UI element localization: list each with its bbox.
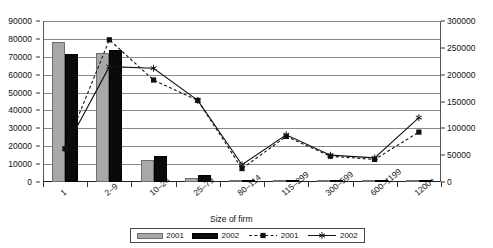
left-axis-tick-mark [36,92,40,93]
bar-group [264,21,308,182]
left-axis-tick-label: 30000 [8,124,32,133]
legend-swatch-dashed-square-icon [248,231,278,240]
bar-2002-2–9 [109,50,122,182]
left-axis-tick-label: 80000 [8,35,32,44]
legend-item-3[interactable]: 2002 [307,231,358,240]
legend-label: 2002 [340,232,358,240]
right-axis-tick-label: 200000 [441,70,475,79]
legend-label: 2002 [221,232,239,240]
right-axis-tick-label: 250000 [441,44,475,53]
x-axis-label-2–9: 2–9 [103,182,119,198]
left-axis-tick-mark [36,38,40,39]
left-axis-tick-label: 40000 [8,106,32,115]
legend-item-2[interactable]: 2001 [248,231,299,240]
bar-group [308,21,352,182]
chart-legend: 2001200220012002 [130,228,365,243]
right-axis-tick-mark [441,155,445,156]
bar-group [220,21,264,182]
legend-swatch-bar-icon [192,233,218,239]
left-axis-tick-mark [36,56,40,57]
legend-item-0[interactable]: 2001 [137,232,184,240]
bar-group [87,21,131,182]
right-axis-tick-mark [441,21,445,22]
left-axis-tick-mark [36,164,40,165]
right-axis-tick-mark [441,74,445,75]
left-axis-tick-mark [36,21,40,22]
left-axis-tick-mark [36,146,40,147]
right-axis-tick-mark [441,101,445,102]
bar-2001-1 [52,42,65,182]
x-axis-title: Size of firm [210,214,253,224]
legend-swatch-bar-icon [137,233,163,239]
right-axis-tick-label: 100000 [441,124,475,133]
left-axis-tick-label: 70000 [8,53,32,62]
bar-group [131,21,175,182]
left-axis-tick-label: 10000 [8,160,32,169]
x-axis-label-1: 1 [59,188,68,198]
bar-group [353,21,397,182]
bar-2001-10–24 [141,160,154,182]
right-axis-tick-label: 150000 [441,97,475,106]
bar-group [176,21,220,182]
left-axis-tick-mark [36,128,40,129]
right-axis-tick-label: 50000 [441,151,471,160]
right-axis-tick-mark [441,47,445,48]
left-axis-tick-label: 20000 [8,142,32,151]
left-axis-tick-mark [36,74,40,75]
right-axis-tick-label: 300000 [441,17,475,26]
bar-2001-2–9 [96,53,109,182]
left-axis-tick-label: 50000 [8,88,32,97]
chart-container: 0100002000030000400005000060000700008000… [0,0,493,248]
legend-label: 2001 [281,232,299,240]
bar-2002-1 [65,54,78,182]
left-axis-tick-label: 60000 [8,70,32,79]
bar-group [43,21,87,182]
left-axis-tick-label: 90000 [8,17,32,26]
legend-label: 2001 [166,232,184,240]
right-axis-tick-mark [441,128,445,129]
left-axis-tick-mark [36,110,40,111]
legend-swatch-solid-asterisk-icon [307,231,337,240]
bar-series-group [43,21,441,182]
bar-group [397,21,441,182]
legend-item-1[interactable]: 2002 [192,232,239,240]
